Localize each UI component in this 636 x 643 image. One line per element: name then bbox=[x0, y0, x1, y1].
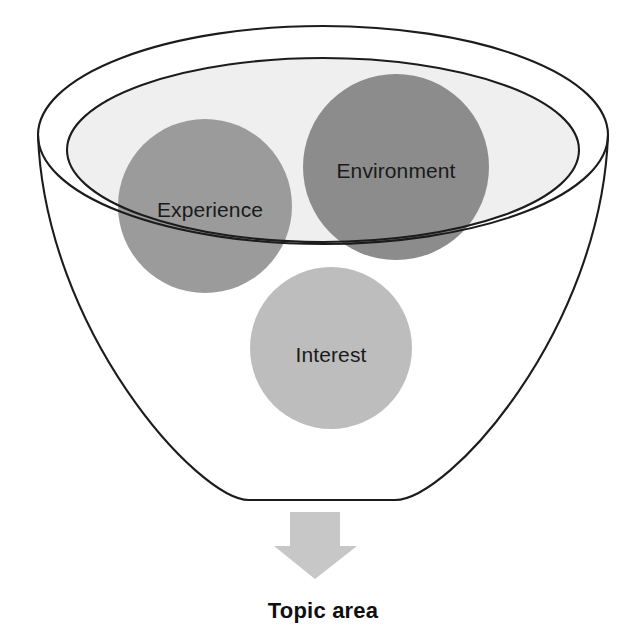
topic-area-caption: Topic area bbox=[268, 598, 378, 624]
bubble-label-environment: Environment bbox=[337, 160, 456, 181]
bubble-label-interest: Interest bbox=[296, 344, 367, 365]
funnel-diagram: Experience Environment Interest Topic ar… bbox=[0, 0, 636, 643]
down-arrow-icon bbox=[274, 512, 357, 579]
funnel-graphic bbox=[0, 0, 636, 643]
bubble-label-experience: Experience bbox=[157, 199, 263, 220]
